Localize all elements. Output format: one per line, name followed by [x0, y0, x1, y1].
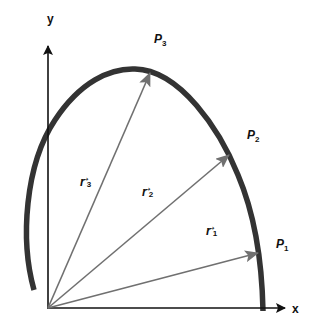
vector-label-r1: → r1: [205, 219, 218, 238]
diagram-canvas: y x P3 P2 P1 → r3 → r2 → r1: [0, 0, 310, 332]
vector-label-r3: → r3: [79, 170, 92, 189]
vector-label-r2: → r2: [141, 180, 154, 199]
point-label-p3: P3: [154, 32, 167, 48]
y-axis-label: y: [47, 12, 54, 26]
point-label-p1: P1: [276, 237, 289, 253]
x-axis-label: x: [292, 302, 299, 316]
point-label-p2: P2: [247, 128, 260, 144]
